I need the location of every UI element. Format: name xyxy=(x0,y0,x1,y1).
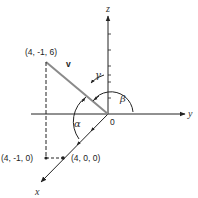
y-axis-label: y xyxy=(187,108,193,119)
beta-arc xyxy=(93,92,133,112)
point-4-neg1-0 xyxy=(44,156,47,159)
vector-label: v xyxy=(66,59,71,69)
vector-tip-label: (4, -1, 6) xyxy=(25,47,57,57)
beta-label: β xyxy=(119,93,126,104)
z-axis-label: z xyxy=(105,3,110,14)
x-point-label: (4, 0, 0) xyxy=(71,153,100,163)
x-axis-label: x xyxy=(34,186,40,197)
gamma-label: γ xyxy=(95,69,101,80)
point-4-0-0 xyxy=(61,156,65,160)
projection-point-label: (4, -1, 0) xyxy=(1,153,33,163)
alpha-label: α xyxy=(74,118,81,129)
z-axis xyxy=(108,16,111,114)
vector-diagram: z y x 0 (4, -1, 6) v (4, -1, 0) (4, 0, 0… xyxy=(0,0,198,198)
origin-label: 0 xyxy=(110,117,115,127)
